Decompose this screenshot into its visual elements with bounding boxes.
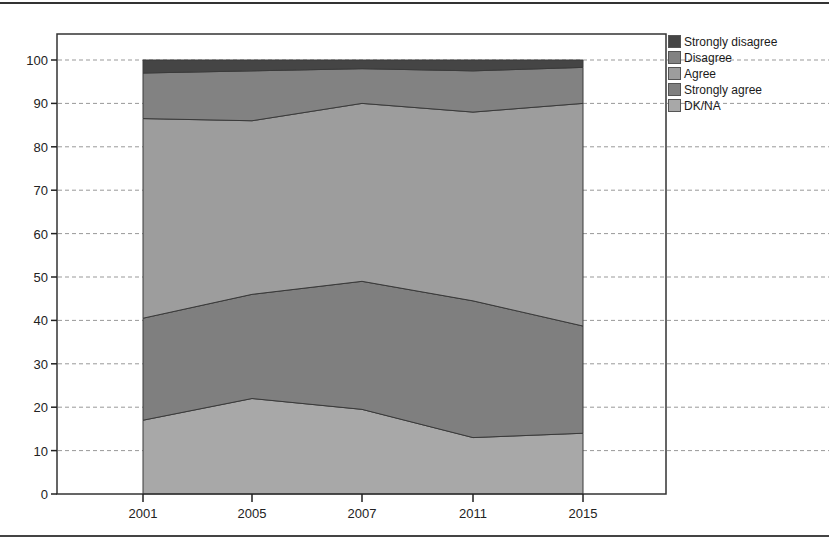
- legend-swatch: [668, 83, 681, 96]
- legend-label: Strongly disagree: [684, 35, 777, 49]
- y-tick-label: 70: [34, 183, 48, 198]
- legend-label: Disagree: [684, 51, 732, 65]
- legend-item-disagree: Disagree: [668, 50, 828, 65]
- y-tick-label: 40: [34, 313, 48, 328]
- legend-item-dk-na: DK/NA: [668, 98, 828, 113]
- legend-item-agree: Agree: [668, 66, 828, 81]
- x-tick-label: 2015: [569, 506, 598, 521]
- legend-label: DK/NA: [684, 99, 721, 113]
- y-tick-label: 0: [41, 487, 48, 502]
- x-tick-label: 2005: [238, 506, 267, 521]
- x-tick-label: 2011: [459, 506, 487, 521]
- legend-swatch: [668, 35, 681, 48]
- y-tick-label: 50: [34, 270, 48, 285]
- y-tick-label: 100: [26, 53, 48, 68]
- x-axis: 20012005200720112015: [129, 494, 598, 521]
- legend-swatch: [668, 67, 681, 80]
- x-tick-label: 2001: [129, 506, 158, 521]
- y-tick-label: 30: [34, 357, 48, 372]
- area-layers: [143, 60, 583, 494]
- y-tick-label: 60: [34, 227, 48, 242]
- y-tick-label: 80: [34, 140, 48, 155]
- y-tick-label: 10: [34, 444, 48, 459]
- legend-label: Strongly agree: [684, 83, 762, 97]
- legend-item-strongly-disagree: Strongly disagree: [668, 34, 828, 49]
- legend-label: Agree: [684, 67, 716, 81]
- y-tick-label: 20: [34, 400, 48, 415]
- y-axis: 0102030405060708090100: [26, 53, 57, 502]
- legend-swatch: [668, 99, 681, 112]
- legend-item-strongly-agree: Strongly agree: [668, 82, 828, 97]
- y-tick-label: 90: [34, 96, 48, 111]
- x-tick-label: 2007: [348, 506, 377, 521]
- legend-swatch: [668, 51, 681, 64]
- legend: Strongly disagree Disagree Agree Strongl…: [668, 34, 828, 114]
